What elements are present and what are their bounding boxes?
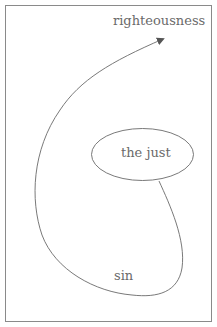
path-curve-arrow bbox=[35, 39, 183, 296]
diagram-canvas bbox=[0, 0, 217, 327]
label-righteousness: righteousness bbox=[113, 13, 205, 28]
label-sin: sin bbox=[114, 268, 133, 283]
label-the-just: the just bbox=[121, 145, 171, 160]
